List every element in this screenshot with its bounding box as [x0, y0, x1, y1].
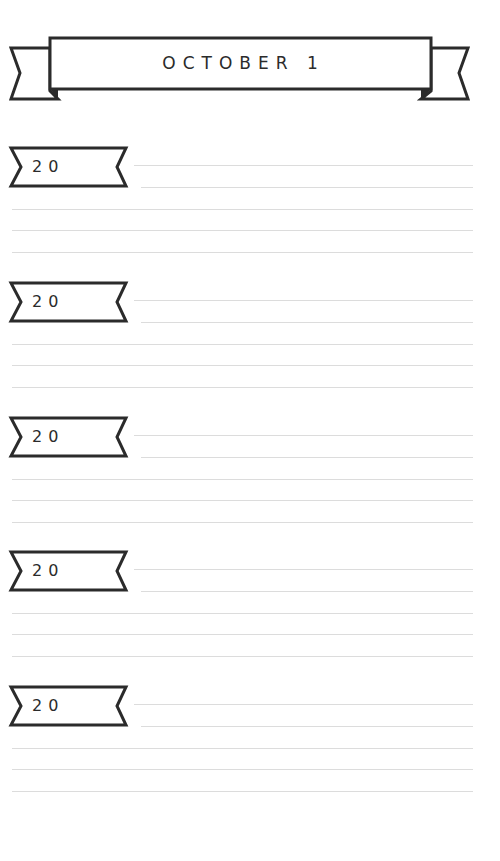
writing-line[interactable]: [12, 387, 473, 388]
writing-line[interactable]: [134, 435, 473, 436]
year-label-ribbon: 20: [0, 146, 140, 190]
year-label-ribbon: 20: [0, 685, 140, 729]
writing-line[interactable]: [12, 230, 473, 231]
ribbon-icon: [0, 281, 140, 325]
writing-line[interactable]: [12, 748, 473, 749]
entry-section-3: 20: [0, 416, 500, 536]
writing-line[interactable]: [12, 769, 473, 770]
year-label: 20: [32, 289, 64, 315]
writing-line[interactable]: [12, 209, 473, 210]
year-label: 20: [32, 693, 64, 719]
writing-line[interactable]: [12, 522, 473, 523]
year-label-ribbon: 20: [0, 281, 140, 325]
writing-line[interactable]: [12, 634, 473, 635]
entry-section-1: 20: [0, 146, 500, 266]
writing-line[interactable]: [12, 344, 473, 345]
writing-line[interactable]: [12, 365, 473, 366]
writing-line[interactable]: [12, 479, 473, 480]
writing-line[interactable]: [12, 500, 473, 501]
year-label-ribbon: 20: [0, 550, 140, 594]
writing-line[interactable]: [12, 613, 473, 614]
writing-line[interactable]: [12, 656, 473, 657]
writing-line[interactable]: [12, 791, 473, 792]
ribbon-icon: [0, 146, 140, 190]
writing-line[interactable]: [134, 704, 473, 705]
year-label: 20: [32, 558, 64, 584]
ribbon-icon: [0, 685, 140, 729]
page-title: OCTOBER 1: [49, 37, 431, 89]
title-banner: OCTOBER 1: [0, 0, 500, 120]
writing-line[interactable]: [141, 726, 473, 727]
writing-line[interactable]: [141, 187, 473, 188]
writing-line[interactable]: [141, 322, 473, 323]
writing-line[interactable]: [12, 252, 473, 253]
writing-line[interactable]: [134, 300, 473, 301]
year-label-ribbon: 20: [0, 416, 140, 460]
entry-section-2: 20: [0, 281, 500, 401]
entry-section-5: 20: [0, 685, 500, 805]
writing-line[interactable]: [141, 457, 473, 458]
entry-section-4: 20: [0, 550, 500, 670]
writing-line[interactable]: [141, 591, 473, 592]
ribbon-icon: [0, 416, 140, 460]
year-label: 20: [32, 424, 64, 450]
writing-line[interactable]: [134, 569, 473, 570]
ribbon-icon: [0, 550, 140, 594]
year-label: 20: [32, 154, 64, 180]
writing-line[interactable]: [134, 165, 473, 166]
